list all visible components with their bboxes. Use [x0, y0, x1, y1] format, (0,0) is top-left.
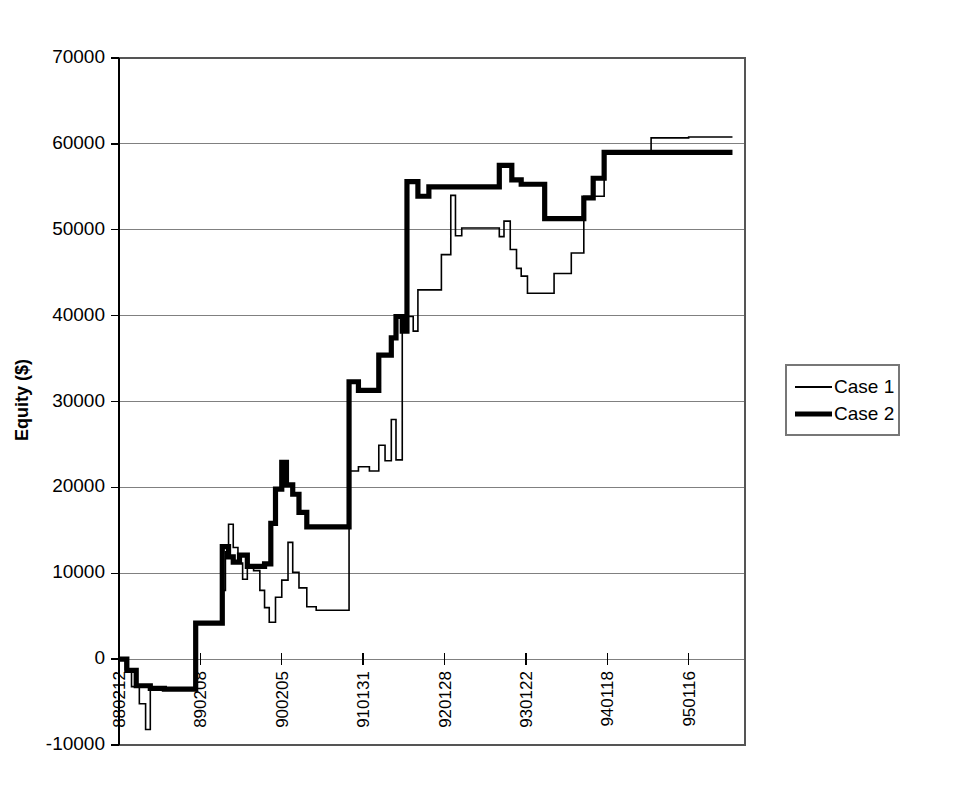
legend-label-case-2: Case 2 [834, 403, 894, 424]
y-axis-tickmarks [111, 58, 119, 745]
x-tick-label: 880212 [110, 671, 129, 728]
x-tick-label: 940118 [598, 671, 617, 726]
legend-label-case-1: Case 1 [834, 376, 894, 397]
x-tick-label: 900205 [273, 671, 292, 728]
y-axis-title: Equity ($) [12, 359, 32, 441]
x-tick-label: 920128 [436, 671, 455, 728]
y-tick-label: 50000 [52, 218, 105, 239]
equity-line-chart: 700006000050000400003000020000100000-100… [0, 0, 960, 785]
chart-legend: Case 1 Case 2 [786, 365, 899, 435]
x-tick-label: 930122 [517, 671, 536, 728]
y-tick-label: 30000 [52, 390, 105, 411]
x-tick-label: 950116 [680, 671, 699, 726]
y-tick-label: 10000 [52, 561, 105, 582]
x-tick-label: 910131 [354, 671, 373, 728]
y-tick-label: 40000 [52, 304, 105, 325]
chart-container: 700006000050000400003000020000100000-100… [0, 0, 960, 785]
y-tick-label: -10000 [46, 733, 105, 754]
y-tick-label: 60000 [52, 132, 105, 153]
y-tick-label: 70000 [52, 46, 105, 67]
y-tick-label: 20000 [52, 475, 105, 496]
y-tick-label: 0 [94, 647, 105, 668]
y-axis-tick-labels: 700006000050000400003000020000100000-100… [46, 46, 105, 754]
